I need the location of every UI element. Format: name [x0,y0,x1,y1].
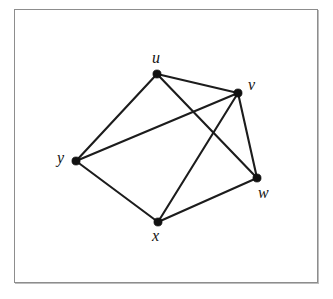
vertices-group [72,70,261,226]
edge-u-v [157,74,238,93]
edge-v-w [238,93,257,178]
vertex-v [234,89,242,97]
graph-canvas [0,0,333,299]
vertex-w [253,174,261,182]
edge-v-x [158,93,238,222]
figure-root: uvwxy [0,0,333,299]
edges-group [76,74,257,222]
vertex-u [153,70,161,78]
edge-v-y [76,93,238,161]
vertex-y [72,157,80,165]
vertex-x [154,218,162,226]
vertex-label-x: x [152,228,159,244]
vertex-label-y: y [57,150,64,166]
edge-x-y [76,161,158,222]
edge-u-y [76,74,157,161]
vertex-label-w: w [258,185,269,201]
vertex-label-v: v [248,77,255,93]
edge-u-w [157,74,257,178]
vertex-label-u: u [152,50,160,66]
